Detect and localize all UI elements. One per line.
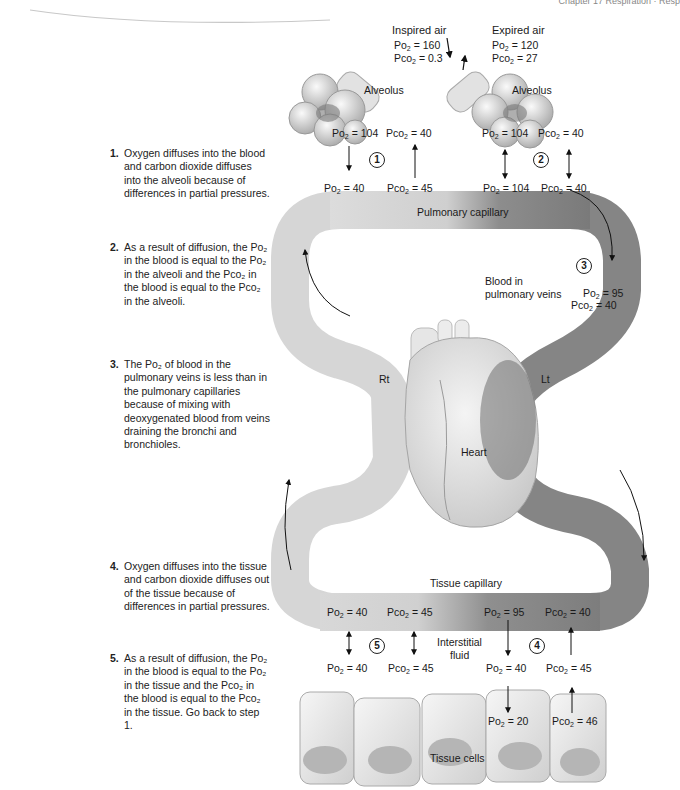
heart-shape (405, 320, 538, 527)
step-1: 1.Oxygen diffuses into the blood and car… (110, 147, 270, 201)
pulm-cap-po2-out: Po2 = 104 (483, 182, 529, 195)
expired-pco2: Pco2 = 27 (492, 52, 538, 65)
heart-label: Heart (461, 446, 487, 458)
step-marker-3: 3 (576, 258, 592, 274)
inspired-air-title: Inspired air (392, 24, 446, 36)
inspired-pco2: Pco2 = 0.3 (394, 52, 443, 65)
step-marker-2: 2 (533, 152, 549, 168)
tissue-cells-po2: Po2 = 20 (488, 715, 528, 728)
step-3: 3.The Po₂ of blood in the pulmonary vein… (110, 358, 270, 452)
expired-air-title: Expired air (492, 24, 545, 36)
alveolus-right-label: Alveolus (512, 84, 552, 96)
pulm-cap-pco2-in: Pco2 = 45 (387, 182, 433, 195)
expired-po2: Po2 = 120 (492, 39, 538, 52)
interstitial-label-2: fluid (450, 649, 469, 661)
interstitial-label-1: Interstitial (437, 636, 482, 648)
step-5: 5.As a result of diffusion, the Po₂ in t… (110, 652, 270, 732)
pulmonary-capillary-label: Pulmonary capillary (417, 206, 509, 218)
interstitial-pco2-1: Pco2 = 45 (388, 662, 434, 675)
pulm-cap-po2-in: Po2 = 40 (324, 182, 364, 195)
alveolus-left-po2: Po2 = 104 (332, 127, 378, 140)
inspired-po2: Po2 = 160 (394, 39, 440, 52)
step-4: 4.Oxygen diffuses into the tissue and ca… (110, 560, 270, 614)
step-marker-5: 5 (369, 638, 385, 654)
heart-right-label: Rt (379, 373, 390, 385)
alveolus-left-label: Alveolus (364, 84, 404, 96)
pulmonary-veins-label-1: Blood in (485, 275, 523, 287)
heart-left-label: Lt (541, 373, 550, 385)
step-marker-1: 1 (369, 152, 385, 168)
alveolus-right-pco2: Pco2 = 40 (538, 127, 584, 140)
pulm-cap-pco2-out: Pco2 = 40 (541, 182, 587, 195)
step-2: 2.As a result of diffusion, the Po₂ in t… (110, 241, 270, 308)
tissue-cells-shape (300, 690, 606, 786)
tissue-cells-pco2: Pco2 = 46 (552, 715, 598, 728)
interstitial-pco2-2: Pco2 = 45 (546, 662, 592, 675)
inspired-arrow (447, 38, 450, 57)
tissue-cap-pco2-out: Pco2 = 40 (545, 606, 591, 619)
tissue-cap-po2-in: Po2 = 40 (327, 606, 367, 619)
tissue-cells-label: Tissue cells (430, 752, 484, 764)
pulmonary-veins-label-2: pulmonary veins (485, 288, 561, 300)
alveolus-right-po2: Po2 = 104 (482, 127, 528, 140)
step-marker-4: 4 (529, 638, 545, 654)
alveolus-left-pco2: Pco2 = 40 (386, 127, 432, 140)
expired-arrow (463, 56, 465, 70)
interstitial-po2-2: Po2 = 40 (486, 662, 526, 675)
pulm-veins-pco2: Pco2 = 40 (571, 299, 617, 312)
tissue-cap-po2-out: Po2 = 95 (484, 606, 524, 619)
tissue-capillary-label: Tissue capillary (430, 577, 502, 589)
tissue-cap-pco2-in: Pco2 = 45 (387, 606, 433, 619)
interstitial-po2-1: Po2 = 40 (327, 662, 367, 675)
